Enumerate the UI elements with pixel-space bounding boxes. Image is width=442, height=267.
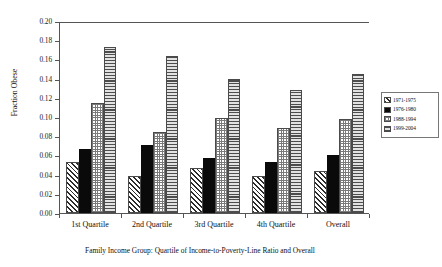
x-axis-title: Family Income Group: Quartile of Income-… [0, 246, 400, 255]
bar [153, 132, 166, 213]
y-axis-tick-label: 0.06 [0, 151, 52, 161]
legend-item-label: 1971-1975 [393, 97, 416, 104]
y-axis-tick-label: 0.16 [0, 55, 52, 65]
y-axis-tick-label: 0.04 [0, 171, 52, 181]
plot-area [59, 22, 369, 214]
x-axis-category-label: Overall [307, 219, 369, 231]
x-axis-tick-mark [183, 214, 184, 218]
y-axis-tick-label: 0.08 [0, 132, 52, 142]
legend-item: 1988-1994 [384, 115, 436, 124]
legend-swatch-icon [384, 107, 391, 113]
x-axis-tick-mark [369, 214, 370, 218]
bar [166, 56, 179, 213]
bar [352, 74, 365, 213]
bar [339, 119, 352, 213]
y-axis-tick-mark [55, 195, 59, 196]
legend-item: 1999-2004 [384, 124, 436, 133]
y-axis-tick-mark [55, 22, 59, 23]
legend-swatch-icon [384, 97, 391, 103]
legend-item-label: 1988-1994 [393, 116, 416, 123]
bar [203, 158, 216, 213]
x-axis-tick-mark [121, 214, 122, 218]
y-axis-tick-label: 0.10 [0, 113, 52, 123]
y-axis-tick-label: 0.00 [0, 209, 52, 219]
y-axis-tick-label: 0.14 [0, 75, 52, 85]
x-axis-category-label: 4th Quartile [245, 219, 307, 231]
x-axis-category-label: 2nd Quartile [121, 219, 183, 231]
legend: 1971-19751976-19801988-19941999-2004 [381, 92, 439, 138]
bar [128, 176, 141, 213]
y-axis-tick-label: 0.02 [0, 190, 52, 200]
x-axis-tick-mark [307, 214, 308, 218]
bar [66, 162, 79, 213]
y-axis-tick-label: 0.20 [0, 17, 52, 27]
y-axis-tick-mark [55, 137, 59, 138]
y-axis-tick-label: 0.12 [0, 94, 52, 104]
y-axis-tick-mark [55, 176, 59, 177]
y-axis-tick-mark [55, 41, 59, 42]
legend-item: 1976-1980 [384, 105, 436, 114]
legend-swatch-icon [384, 116, 391, 122]
bar [190, 168, 203, 213]
y-axis-title: Fraction Obese [10, 48, 19, 138]
y-axis-tick-mark [55, 99, 59, 100]
x-axis-category-label: 3rd Quartile [183, 219, 245, 231]
bar [141, 145, 154, 213]
x-axis-tick-mark [245, 214, 246, 218]
bar [314, 171, 327, 213]
bar [104, 47, 117, 213]
y-axis-tick-mark [55, 60, 59, 61]
bar [252, 176, 265, 213]
legend-swatch-icon [384, 126, 391, 132]
legend-item-label: 1976-1980 [393, 106, 416, 113]
y-axis-tick-mark [55, 80, 59, 81]
bar [215, 118, 228, 213]
y-axis-tick-label: 0.18 [0, 36, 52, 46]
obesity-bar-chart: 0.200.180.160.140.120.100.080.060.040.02… [0, 0, 442, 267]
legend-item-label: 1999-2004 [393, 125, 416, 132]
bar [265, 162, 278, 213]
x-axis-category-label: 1st Quartile [59, 219, 121, 231]
bar [228, 79, 241, 213]
bar [79, 149, 92, 213]
y-axis-tick-mark [55, 118, 59, 119]
bar [277, 128, 290, 213]
bar [290, 90, 303, 213]
bar [327, 155, 340, 213]
y-axis-tick-mark [55, 156, 59, 157]
x-axis-tick-mark [59, 214, 60, 218]
bar [91, 103, 104, 213]
legend-item: 1971-1975 [384, 96, 436, 105]
